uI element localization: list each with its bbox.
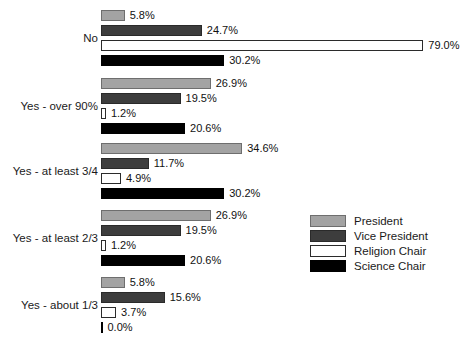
bar-value-label: 1.2%: [111, 239, 136, 252]
bar-group: No5.8%24.7%79.0%30.2%: [0, 10, 470, 70]
bar: [101, 158, 149, 169]
bar: [101, 78, 211, 89]
bar-value-label: 24.7%: [207, 24, 238, 37]
bar: [101, 40, 423, 51]
bar-value-label: 3.7%: [121, 306, 146, 319]
bar: [101, 173, 121, 184]
bar: [101, 255, 185, 266]
legend-item: Religion Chair: [310, 244, 460, 259]
legend-label: Religion Chair: [354, 244, 426, 258]
bar-value-label: 26.9%: [216, 209, 247, 222]
grouped-bar-chart: No5.8%24.7%79.0%30.2%Yes - over 90%26.9%…: [0, 0, 470, 340]
bar: [101, 225, 181, 236]
category-label: No: [0, 32, 98, 44]
bar-value-label: 20.6%: [190, 122, 221, 135]
bar-value-label: 0.0%: [108, 321, 133, 334]
bar: [101, 292, 165, 303]
legend-label: President: [354, 214, 403, 228]
bar-value-label: 19.5%: [186, 92, 217, 105]
legend-swatch: [310, 260, 346, 272]
bar: [101, 10, 125, 21]
bar: [101, 210, 211, 221]
bar-group: Yes - about 1/35.8%15.6%3.7%0.0%: [0, 277, 470, 337]
category-label: Yes - about 1/3: [0, 299, 98, 311]
bar-value-label: 19.5%: [186, 224, 217, 237]
bar: [101, 123, 185, 134]
bar: [101, 108, 106, 119]
legend-swatch: [310, 245, 346, 257]
bar-value-label: 30.2%: [229, 187, 260, 200]
legend-swatch: [310, 230, 346, 242]
bar-value-label: 15.6%: [170, 291, 201, 304]
bar: [101, 143, 242, 154]
category-label: Yes - over 90%: [0, 100, 98, 112]
bar: [101, 277, 125, 288]
bar: [101, 93, 181, 104]
bar-value-label: 20.6%: [190, 254, 221, 267]
bar-value-label: 5.8%: [130, 9, 155, 22]
bar-group: Yes - over 90%26.9%19.5%1.2%20.6%: [0, 78, 470, 138]
category-label: Yes - at least 2/3: [0, 232, 98, 244]
legend-item: President: [310, 214, 460, 229]
legend-label: Science Chair: [354, 259, 426, 273]
category-label: Yes - at least 3/4: [0, 165, 98, 177]
bar: [101, 307, 116, 318]
bar-value-label: 30.2%: [229, 54, 260, 67]
bar-value-label: 79.0%: [428, 39, 459, 52]
legend-swatch: [310, 215, 346, 227]
bar-value-label: 26.9%: [216, 77, 247, 90]
chart-legend: PresidentVice PresidentReligion ChairSci…: [310, 214, 460, 274]
chart-plot-area: No5.8%24.7%79.0%30.2%Yes - over 90%26.9%…: [0, 0, 470, 340]
bar: [101, 188, 224, 199]
bar: [101, 25, 202, 36]
bar-value-label: 5.8%: [130, 276, 155, 289]
bar-value-label: 34.6%: [247, 142, 278, 155]
bar-group: Yes - at least 3/434.6%11.7%4.9%30.2%: [0, 143, 470, 203]
bar: [101, 240, 106, 251]
bar-value-label: 11.7%: [154, 157, 184, 170]
bar: [101, 322, 103, 333]
bar-value-label: 4.9%: [126, 172, 151, 185]
legend-item: Vice President: [310, 229, 460, 244]
bar: [101, 55, 224, 66]
legend-item: Science Chair: [310, 259, 460, 274]
bar-value-label: 1.2%: [111, 107, 136, 120]
legend-label: Vice President: [354, 229, 428, 243]
